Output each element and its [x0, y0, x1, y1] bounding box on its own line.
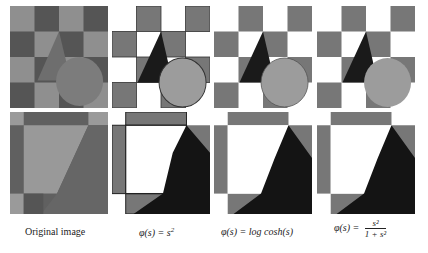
logcosh-result-zoom: [214, 112, 312, 214]
caption-geman-fraction: s² 1 + s²: [365, 218, 386, 240]
caption-geman: φ(s) = s² 1 + s²: [334, 218, 386, 240]
caption-quadratic-sup: 2: [171, 226, 175, 234]
original-image-full: [10, 6, 108, 108]
caption-geman-prefix: φ(s) =: [334, 222, 359, 233]
caption-original-text: Original image: [25, 226, 85, 237]
original-image-zoom: [10, 112, 108, 214]
fraction-numerator: s²: [365, 218, 386, 229]
geman-result-zoom: [317, 112, 415, 214]
geman-result-full: [317, 6, 415, 108]
quadratic-result-zoom: [112, 112, 210, 214]
caption-original: Original image: [25, 226, 85, 237]
logcosh-result-full: [214, 6, 312, 108]
caption-logcosh: φ(s) = log cosh(s): [221, 226, 293, 237]
quadratic-result-full: [112, 6, 210, 108]
fraction-denominator: 1 + s²: [365, 229, 386, 240]
caption-quadratic-text: φ(s) = s: [139, 227, 171, 238]
caption-logcosh-text: φ(s) = log cosh(s): [221, 226, 293, 237]
caption-quadratic: φ(s) = s2: [139, 226, 174, 238]
